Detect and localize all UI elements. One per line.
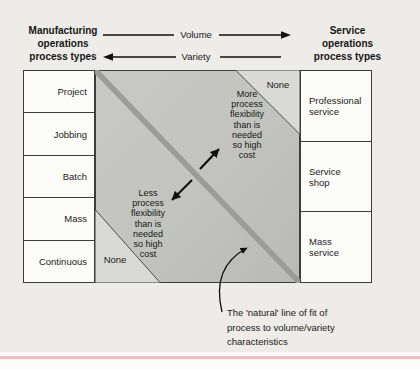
- manufacturing-header: Manufacturing operations process types: [14, 24, 112, 63]
- process-cell-mass: Mass: [24, 198, 94, 240]
- less-flexibility-note: Less process flexibility than is needed …: [115, 188, 181, 259]
- process-cell-continuous: Continuous: [24, 241, 94, 282]
- process-cell-batch: Batch: [24, 156, 94, 198]
- process-cell-project: Project: [24, 71, 94, 113]
- natural-line-annotation: The 'natural' line of fit of process to …: [227, 306, 382, 350]
- volume-label: Volume: [176, 29, 216, 40]
- pink-divider-rule: [0, 356, 420, 359]
- process-cell-jobbing: Jobbing: [24, 113, 94, 155]
- process-cell-service-shop: Service shop: [301, 142, 371, 213]
- manufacturing-process-column: Project Jobbing Batch Mass Continuous: [23, 70, 95, 283]
- process-cell-professional-service: Professional service: [301, 71, 371, 142]
- variety-label: Variety: [176, 51, 216, 62]
- process-cell-mass-service: Mass service: [301, 212, 371, 282]
- service-header: Service operations process types: [299, 24, 396, 63]
- more-flexibility-note: More process flexibility than is needed …: [214, 89, 280, 160]
- process-types-diagram: Manufacturing operations process types S…: [0, 0, 420, 369]
- service-process-column: Professional service Service shop Mass s…: [300, 70, 372, 283]
- page-bottom-margin: [0, 352, 420, 369]
